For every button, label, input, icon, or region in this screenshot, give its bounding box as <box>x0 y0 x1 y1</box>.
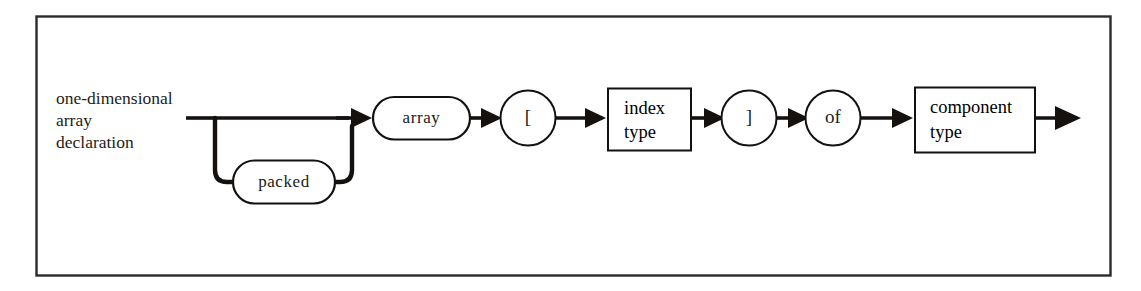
node-packed-label: packed <box>258 172 310 191</box>
node-of-label: of <box>825 106 842 127</box>
node-component-type-label-line-1: component <box>930 97 1013 117</box>
arrowhead-exit <box>1055 106 1081 130</box>
node-close-bracket-label: ] <box>746 106 752 127</box>
node-packed[interactable]: packed <box>233 161 335 204</box>
node-open-bracket[interactable]: [ <box>501 91 556 146</box>
node-index-type-label-line-1: index <box>624 98 666 118</box>
node-array[interactable]: array <box>373 97 470 140</box>
arrowhead-to-index-type <box>585 108 606 128</box>
rule-label-line-2: array <box>56 110 92 130</box>
rail-packed-branch-left <box>215 118 234 182</box>
railroad-diagram-canvas: packed array [ index type ] of <box>0 0 1141 291</box>
arrowhead-to-component-type <box>892 108 913 128</box>
node-index-type-label-line-2: type <box>624 122 656 142</box>
node-component-type[interactable]: component type <box>915 88 1035 153</box>
rail-packed-branch-right <box>334 126 352 182</box>
node-open-bracket-label: [ <box>525 106 531 127</box>
node-of[interactable]: of <box>806 91 861 146</box>
node-index-type[interactable]: index type <box>608 89 691 151</box>
arrowhead-to-open-bracket <box>481 108 502 128</box>
rule-label-line-1: one-dimensional <box>56 88 173 108</box>
arrowhead-to-array <box>351 108 372 128</box>
rule-label-line-3: declaration <box>56 132 134 152</box>
syntax-diagram-figure: packed array [ index type ] of <box>0 0 1141 291</box>
node-array-label: array <box>403 108 441 127</box>
node-close-bracket[interactable]: ] <box>722 91 777 146</box>
node-component-type-label-line-2: type <box>930 122 962 142</box>
rule-name-label: one-dimensional array declaration <box>56 88 173 152</box>
